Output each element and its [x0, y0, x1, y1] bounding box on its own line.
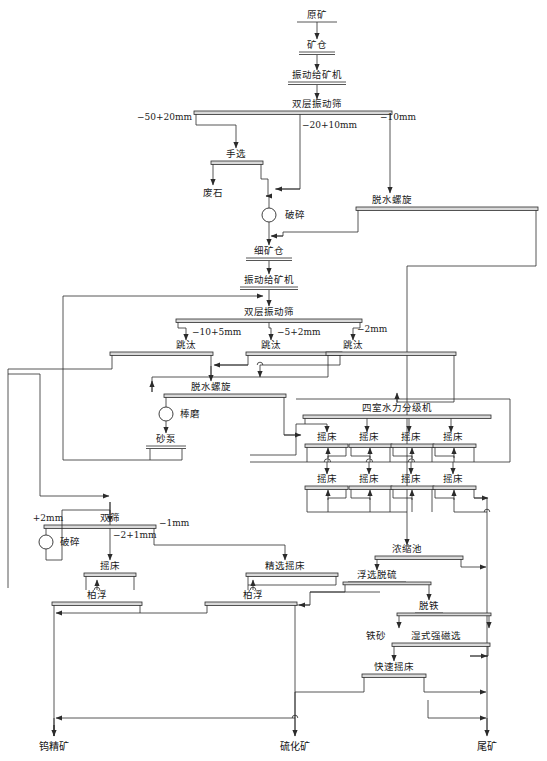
- unit-shaking-table-r2c2: [349, 486, 392, 489]
- size-label-2-1: −2+1mm: [113, 530, 157, 540]
- product-label-iron-sand: 铁砂: [366, 630, 386, 641]
- unit-four-chamber-classifier: [303, 415, 491, 418]
- unit-shaking-table-main: [84, 573, 136, 576]
- unit-label-double-deck-screen-2: 双层振动筛: [244, 306, 294, 317]
- unit-label-shaking-table-r2c4: 摇床: [443, 473, 463, 484]
- size-label-10-5: −10+5mm: [192, 327, 242, 337]
- unit-label-raw-ore: 原矿: [307, 9, 327, 20]
- unit-jig-3: [326, 352, 456, 355]
- size-label-plus2: +2mm: [33, 513, 64, 523]
- flowsheet-diagram: 原矿 矿仓 振动给矿机 双层振动筛 −50+20mm −20+10mm −10m…: [0, 0, 547, 761]
- unit-label-vibrating-feeder-2: 振动给矿机: [244, 274, 294, 285]
- product-label-tungsten-concentrate: 钨精矿: [39, 740, 69, 752]
- unit-label-thickener: 浓缩池: [392, 543, 422, 554]
- unit-label-ore-bin: 矿仓: [307, 39, 327, 50]
- unit-jig-1: [110, 352, 213, 355]
- unit-label-shaking-table-r2c1: 摇床: [317, 473, 337, 484]
- unit-dewatering-spiral-1: [356, 207, 538, 210]
- product-label-waste-rock: 废石: [203, 187, 223, 198]
- unit-flotation-1: [52, 602, 142, 605]
- unit-label-shaking-table-r1c2: 摇床: [359, 431, 379, 442]
- unit-label-four-chamber-classifier: 四室水力分级机: [362, 402, 432, 413]
- unit-rod-mill: [159, 407, 173, 421]
- unit-label-cleaning-shaking-table: 精选摇床: [265, 560, 305, 571]
- size-label-5-2: −5+2mm: [277, 327, 321, 337]
- unit-label-rod-mill: 棒磨: [180, 408, 200, 419]
- unit-label-flotation-desulfurization: 浮选脱硫: [357, 569, 397, 580]
- unit-shaking-table-r1c4: [433, 444, 476, 447]
- unit-flotation-desulfurization: [343, 582, 431, 585]
- unit-label-shaking-table-r2c2: 摇床: [359, 473, 379, 484]
- unit-label-fast-shaking-table: 快速摇床: [374, 661, 414, 672]
- unit-crushing-2: [39, 535, 53, 549]
- unit-label-flotation-1: 柏浮: [87, 589, 107, 600]
- unit-label-double-screen: 双筛: [100, 512, 120, 523]
- unit-label-shaking-table-r2c3: 摇床: [401, 473, 421, 484]
- unit-label-dewatering-spiral-2: 脱水螺旋: [191, 381, 231, 392]
- size-label-20-10: −20+10mm: [302, 120, 358, 130]
- size-label-10: −10mm: [380, 112, 417, 122]
- unit-label-double-deck-screen-1: 双层振动筛: [292, 98, 342, 109]
- unit-label-hand-sorting: 手选: [226, 148, 246, 159]
- unit-label-shaking-table-r1c1: 摇床: [317, 431, 337, 442]
- size-label-2: −2mm: [357, 324, 388, 334]
- unit-cleaning-shaking-table: [246, 573, 338, 576]
- unit-crushing-1: [262, 208, 276, 222]
- unit-thickener: [375, 556, 463, 559]
- unit-label-jig-2: 跳汰: [261, 339, 281, 350]
- size-label-50-20: −50+20mm: [137, 112, 193, 122]
- unit-shaking-table-r1c2: [349, 444, 392, 447]
- unit-fast-shaking-table: [362, 674, 426, 677]
- size-label-minus1: −1mm: [159, 518, 190, 528]
- unit-label-vibrating-feeder-1: 振动给矿机: [292, 69, 342, 80]
- unit-label-sand-pump: 砂泵: [156, 433, 176, 444]
- unit-shaking-table-r2c1: [305, 486, 348, 489]
- unit-hand-sorting: [211, 161, 263, 164]
- unit-dewatering-spiral-2: [164, 394, 286, 397]
- unit-label-iron-removal: 脱铁: [419, 600, 439, 611]
- unit-shaking-table-r2c3: [391, 486, 434, 489]
- unit-shaking-table-r1c3: [391, 444, 434, 447]
- unit-wet-high-intensity-magnetic: [392, 643, 490, 646]
- unit-label-crushing-1: 破碎: [285, 209, 305, 220]
- product-label-sulfide-ore: 硫化矿: [280, 740, 310, 752]
- unit-label-jig-3: 跳汰: [343, 339, 363, 350]
- unit-flotation-2: [205, 602, 297, 605]
- unit-label-shaking-table-r1c4: 摇床: [443, 431, 463, 442]
- product-label-tailings: 尾矿: [477, 740, 497, 752]
- unit-label-shaking-table-main: 摇床: [100, 560, 120, 571]
- unit-shaking-table-r1c1: [305, 444, 348, 447]
- unit-label-flotation-2: 柏浮: [243, 589, 263, 600]
- unit-label-fine-ore-bin: 细矿仓: [254, 245, 284, 256]
- unit-label-shaking-table-r1c3: 摇床: [401, 431, 421, 442]
- unit-label-crushing-2: 破碎: [60, 536, 80, 547]
- unit-shaking-table-r2c4: [433, 486, 476, 489]
- unit-double-screen: [44, 525, 156, 528]
- unit-label-dewatering-spiral-1: 脱水螺旋: [372, 194, 412, 205]
- unit-iron-removal: [397, 613, 491, 616]
- unit-label-wet-magnetic: 湿式强磁选: [411, 630, 461, 641]
- unit-double-deck-screen-1: [194, 111, 392, 114]
- unit-double-deck-screen-2: [176, 319, 362, 322]
- unit-label-jig-1: 跳汰: [176, 339, 196, 350]
